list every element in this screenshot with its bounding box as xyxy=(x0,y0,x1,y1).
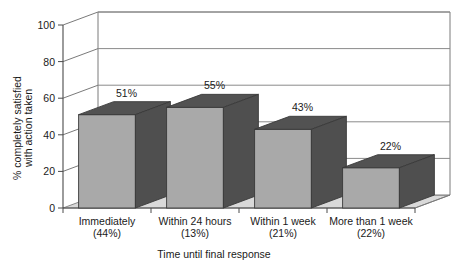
bar-front-face-3 xyxy=(343,168,400,208)
x-category-label-1: Within 24 hours xyxy=(159,215,232,227)
x-category-label-0: Immediately xyxy=(79,215,136,227)
bar-group-3 xyxy=(343,155,435,208)
bar-side-face-0 xyxy=(135,102,170,208)
y-tick-label-40: 40 xyxy=(43,129,55,141)
side-wall-rule-80 xyxy=(63,49,98,62)
x-category-label-2: Within 1 week xyxy=(250,215,316,227)
side-wall-rule-100 xyxy=(63,12,98,25)
bar-front-face-1 xyxy=(167,107,224,208)
y-tick-label-100: 100 xyxy=(37,19,55,31)
bar-front-face-2 xyxy=(255,129,312,208)
x-category-sublabel-2: (21%) xyxy=(269,227,297,239)
bar-front-face-0 xyxy=(79,115,136,208)
x-category-label-3: More than 1 week xyxy=(329,215,413,227)
x-category-sublabel-0: (44%) xyxy=(93,227,121,239)
y-tick-label-20: 20 xyxy=(43,165,55,177)
bar-value-label-3: 22% xyxy=(380,140,401,152)
x-category-sublabel-3: (22%) xyxy=(357,227,385,239)
bar-side-face-1 xyxy=(223,94,258,208)
y-axis-title-line2: with action taken xyxy=(22,89,34,168)
bar-side-face-2 xyxy=(311,116,346,208)
bar-chart-3d: 02040608010051%Immediately(44%)55%Within… xyxy=(0,0,474,262)
bar-group-0 xyxy=(79,102,171,208)
bar-group-2 xyxy=(255,116,347,208)
bar-value-label-1: 55% xyxy=(204,79,225,91)
bar-group-1 xyxy=(167,94,259,208)
y-tick-label-60: 60 xyxy=(43,92,55,104)
x-category-sublabel-1: (13%) xyxy=(181,227,209,239)
side-wall-rule-60 xyxy=(63,85,98,98)
y-tick-label-0: 0 xyxy=(49,202,55,214)
chart-container: 02040608010051%Immediately(44%)55%Within… xyxy=(0,0,474,262)
bar-value-label-0: 51% xyxy=(116,87,137,99)
x-axis-title: Time until final response xyxy=(157,248,271,260)
y-tick-label-80: 80 xyxy=(43,56,55,68)
bar-value-label-2: 43% xyxy=(292,101,313,113)
